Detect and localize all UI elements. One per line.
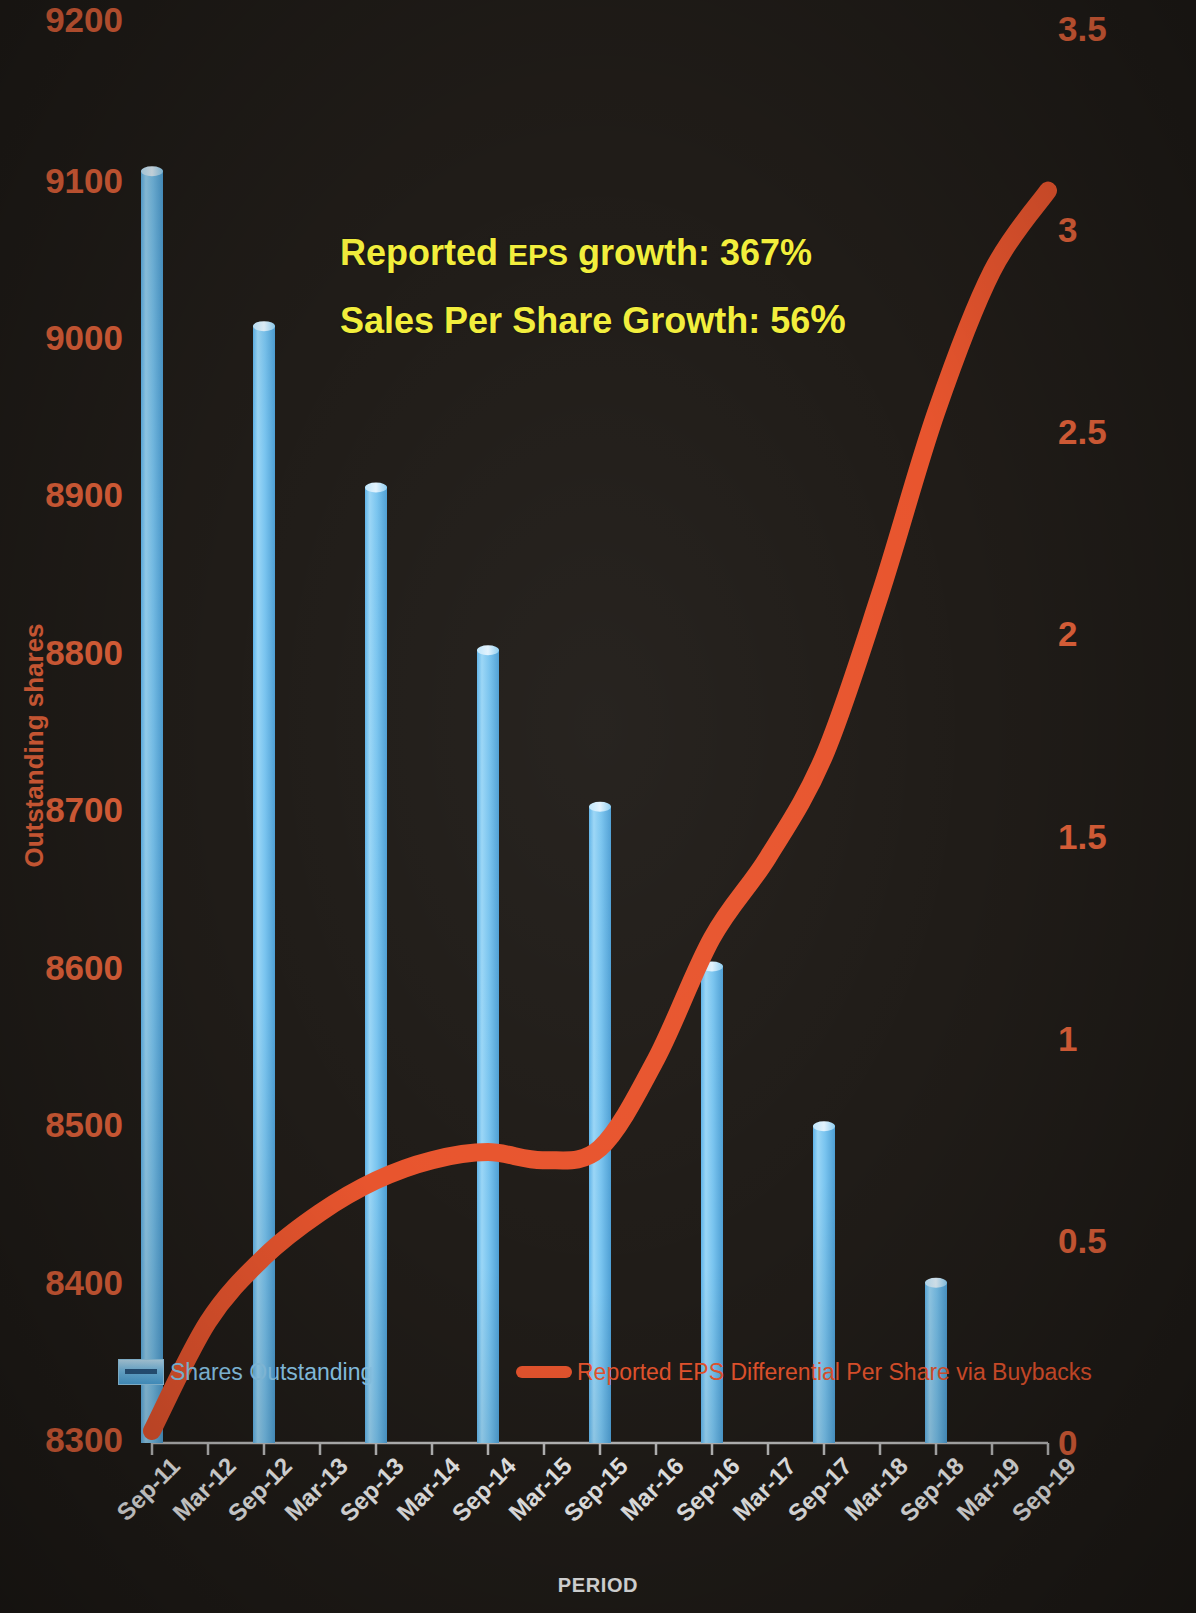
annotation-sales-growth-c: % [810,297,846,341]
bar-sep-13[interactable] [365,482,387,1443]
annotation-eps-growth-e: % [780,232,812,273]
bar-sep-17[interactable] [813,1121,835,1443]
x-axis-tickmarks [152,1443,1048,1455]
bar-sep-11[interactable] [141,166,163,1443]
annotation-eps-growth-d: 367 [720,232,780,273]
annotation-sales-growth-a: Sales Per Share Growth: [340,300,770,341]
annotation-eps-growth-b: EPS [508,238,568,271]
bar-sep-15[interactable] [589,802,611,1443]
legend-bar-swatch-icon [118,1359,164,1385]
legend-label-shares-outstanding: Shares Outstanding [170,1359,373,1386]
annotation-sales-growth: Sales Per Share Growth: 56% [340,297,846,342]
legend-item-eps-differential[interactable]: Reported EPS Differential Per Share via … [516,1352,1092,1392]
annotation-eps-growth-c: growth: [568,232,720,273]
annotation-eps-growth: Reported EPS growth: 367% [340,232,812,274]
legend-item-shares-outstanding[interactable]: Shares Outstanding [118,1352,373,1392]
legend-line-swatch-icon [516,1366,572,1378]
annotation-eps-growth-a: Reported [340,232,508,273]
bar-sep-14[interactable] [477,645,499,1443]
chart-legend: Shares Outstanding Reported EPS Differen… [118,1352,1038,1392]
annotation-sales-growth-b: 56 [770,300,810,341]
legend-label-eps-differential: Reported EPS Differential Per Share via … [577,1359,1092,1386]
chart-canvas: 9200 9100 9000 8900 8800 8700 8600 8500 … [0,0,1196,1613]
